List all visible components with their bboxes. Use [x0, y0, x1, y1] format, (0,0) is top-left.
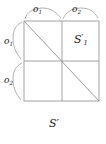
left-brace-label-o1-subscript: 1 — [10, 41, 14, 47]
left-brace-o1 — [13, 22, 22, 59]
top-brace-label-o2-base: o — [72, 4, 77, 14]
left-brace-label-o2: o2 — [4, 76, 13, 86]
left-braces — [13, 22, 22, 100]
top-brace-label-o2: o2 — [72, 5, 81, 15]
top-brace-label-o1: o1 — [33, 5, 42, 15]
figure-caption: S′ — [49, 118, 59, 129]
top-brace-label-o1-subscript: 1 — [39, 9, 43, 15]
block-matrix-figure: o1 o2 o1 o2 S′1 S′ — [0, 0, 106, 144]
top-brace-o1 — [25, 8, 61, 19]
top-brace-label-o2-subscript: 2 — [78, 9, 82, 15]
left-brace-o2 — [13, 63, 22, 100]
left-brace-label-o2-base: o — [4, 75, 9, 85]
left-brace-label-o2-subscript: 2 — [10, 80, 14, 86]
top-brace-label-o1-base: o — [33, 4, 38, 14]
left-brace-label-o1: o1 — [4, 37, 13, 47]
left-brace-label-o1-base: o — [4, 36, 9, 46]
cell-label-s-prime-1-subscript: 1 — [84, 39, 88, 47]
cell-label-s-prime-1: S′1 — [74, 33, 88, 47]
